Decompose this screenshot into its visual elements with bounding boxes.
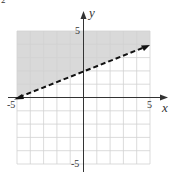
x-tick-label-left: -5 xyxy=(7,100,15,110)
y-tick-label-bottom: -5 xyxy=(71,159,79,169)
y-tick-label-top: 5 xyxy=(75,26,80,36)
y-axis-arrow-icon xyxy=(81,11,87,19)
y-axis-label: y xyxy=(89,6,95,19)
problem-marker: 2 xyxy=(1,0,6,5)
x-tick-label-right: 5 xyxy=(147,100,152,110)
x-axis-label: x xyxy=(162,101,168,114)
coordinate-plane xyxy=(0,0,179,178)
